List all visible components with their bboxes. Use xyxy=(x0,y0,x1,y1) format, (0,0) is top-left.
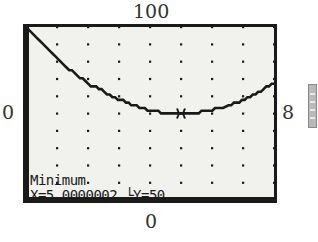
calculator-graph-screen: Minimum X=5.0000002 └Y=50 xyxy=(23,24,277,203)
window-ymin-label: 0 xyxy=(145,212,157,231)
coordinate-readout: X=5.0000002 └Y=50 xyxy=(30,188,165,202)
scroll-tab-icon xyxy=(308,84,317,128)
window-xmin-label: 0 xyxy=(2,103,14,122)
minimum-label: Minimum xyxy=(30,173,86,187)
window-ymax-label: 100 xyxy=(133,2,169,21)
window-xmax-label: 8 xyxy=(282,103,294,122)
